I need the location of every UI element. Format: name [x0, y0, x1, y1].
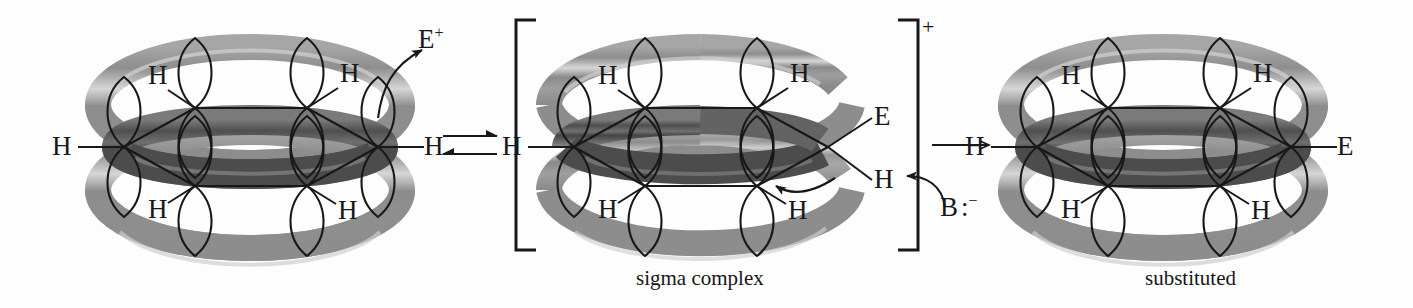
mechanism-graphics	[0, 0, 1413, 308]
benzene-h-top-left: H	[148, 62, 168, 89]
base-lone-pair: :	[961, 192, 969, 222]
product-h-bottom-left: H	[1061, 196, 1081, 223]
reaction-scheme: H H H H H H E+ H H H H H E H + B:− H H H…	[0, 0, 1413, 308]
product-h-left: H	[965, 133, 985, 160]
caption-sigma-complex: sigma complex	[636, 268, 764, 289]
product-substituent-e: E	[1337, 133, 1354, 160]
base-charge: −	[969, 192, 978, 209]
benzene-h-left: H	[52, 133, 72, 160]
sigma-h-bottom-left: H	[598, 196, 618, 223]
sigma-h-top-left: H	[598, 62, 618, 89]
bracket-right	[898, 20, 918, 250]
product-h-bottom-right: H	[1251, 197, 1271, 224]
figure-root: H H H H H H E+ H H H H H E H + B:− H H H…	[0, 0, 1413, 308]
benzene-h-right: H	[424, 133, 444, 160]
product-h-top-right: H	[1253, 60, 1273, 87]
sigma-complex-charge: +	[922, 16, 934, 38]
product-h-top-left: H	[1061, 62, 1081, 89]
electrophile-label: E+	[418, 25, 444, 53]
benzene-h-bottom-left: H	[148, 196, 168, 223]
sigma-h-top-right: H	[790, 60, 810, 87]
benzene-h-top-right: H	[340, 60, 360, 87]
equilibrium-arrow	[443, 136, 497, 154]
sigma-sp3-hydrogen: H	[874, 166, 894, 193]
sigma-h-bottom-right: H	[788, 197, 808, 224]
caption-substituted: substituted	[1145, 268, 1236, 289]
benzene-h-bottom-right: H	[338, 197, 358, 224]
sigma-h-left: H	[502, 133, 522, 160]
structure-benzene	[78, 38, 424, 265]
sigma-sp3-electrophile: E	[874, 103, 891, 130]
structure-sigma-complex	[528, 38, 872, 259]
curly-arrow-sigma-complex	[776, 178, 835, 192]
electrophile-symbol: E	[418, 24, 435, 54]
base-label: B:−	[940, 193, 978, 221]
base-symbol: B	[940, 192, 958, 222]
structure-substituted	[991, 38, 1337, 265]
electrophile-charge: +	[435, 24, 444, 41]
